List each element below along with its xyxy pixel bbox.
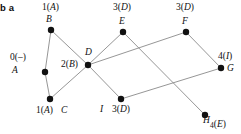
figure-caption: b a	[0, 2, 14, 13]
graph-edge-F-G	[186, 32, 221, 68]
graph-node-G[interactable]	[218, 65, 224, 71]
graph-edge-C-D	[50, 65, 88, 99]
node-name-A: A	[12, 66, 18, 76]
edge-layer	[45, 30, 221, 115]
graph-edge-D-F	[88, 32, 186, 65]
graph-node-A[interactable]	[42, 69, 48, 75]
node-name-B: B	[46, 15, 52, 25]
node-name-I: I	[100, 105, 103, 115]
graph-node-D[interactable]	[85, 62, 91, 68]
node-name-H: H	[203, 116, 210, 126]
graph-node-F[interactable]	[183, 29, 189, 35]
node-distance-E: 3(D)	[113, 3, 131, 13]
node-name-D: D	[85, 48, 92, 58]
node-name-E: E	[119, 17, 125, 27]
graph-edge-D-E	[88, 32, 123, 65]
graph-node-C[interactable]	[47, 96, 53, 102]
graph-edge-E-H	[123, 32, 205, 115]
node-distance-H: 4(E)	[210, 120, 226, 130]
graph-figure: b a A0(–)B1(A)C1(A)D2(B)E3(D)F3(D)G4(I)I…	[0, 0, 241, 134]
node-distance-F: 3(D)	[176, 3, 194, 13]
graph-node-B[interactable]	[48, 27, 54, 33]
graph-node-E[interactable]	[120, 29, 126, 35]
node-layer	[42, 27, 224, 118]
node-name-G: G	[227, 64, 234, 74]
node-distance-C: 1(A)	[36, 106, 53, 116]
graph-edge-A-C	[45, 72, 50, 99]
node-name-C: C	[61, 106, 67, 116]
node-distance-A: 0(–)	[10, 53, 26, 63]
node-name-F: F	[182, 17, 188, 27]
graph-node-I[interactable]	[118, 96, 124, 102]
node-distance-I: 3(D)	[112, 105, 130, 115]
graph-edge-A-B	[45, 30, 51, 72]
graph-edge-D-I	[88, 65, 121, 99]
graph-edge-I-G	[121, 68, 221, 99]
node-distance-D: 2(B)	[61, 60, 78, 70]
node-distance-B: 1(A)	[42, 3, 59, 13]
node-distance-G: 4(I)	[218, 52, 232, 62]
